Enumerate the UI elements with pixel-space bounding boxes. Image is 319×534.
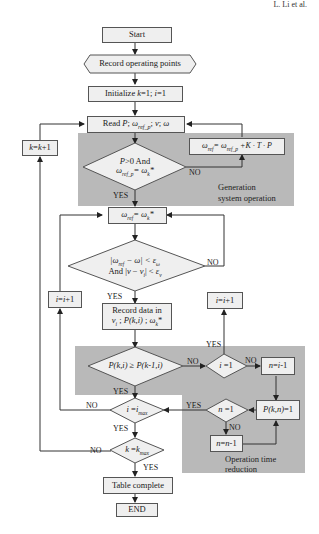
p-set-label: P(k,n)=1	[263, 405, 293, 415]
edge-yes-cond-n1: YES	[186, 401, 201, 410]
k-increment-label: k=k+1	[29, 143, 50, 153]
set-ref-label: ωref= ωk*	[121, 210, 154, 221]
init-node: Initialize k=1; i=1	[88, 86, 183, 102]
init-label: Initialize k=1; i=1	[105, 89, 166, 99]
update-ref-node: ωref= ωref_p +K · T · P	[189, 138, 285, 155]
p-set-node: P(k,n)=1	[256, 400, 300, 420]
cond-n1-label: n =1	[211, 405, 241, 414]
generation-caption-2: system operation	[218, 194, 276, 203]
cond-err-label: |ωref − ω| < εω And |v − vi| < εv	[85, 256, 185, 279]
generation-caption-1: Generation	[218, 183, 256, 192]
reduction-caption-1: Operation time	[225, 455, 276, 464]
i-increment-right-label: i=i+1	[216, 296, 235, 306]
cond-i1-label: i =1	[210, 361, 242, 370]
record-data-label: Record data invi ; P(k,i) ; ωk*	[112, 306, 162, 327]
edge-no-cond-n1: NO	[229, 423, 241, 432]
n-decrement-node: n=n-1	[210, 435, 243, 452]
n-set-label: n=i-1	[269, 361, 288, 371]
edge-no-cond-i1: NO	[245, 356, 257, 365]
edge-yes-cond-err: YES	[107, 292, 122, 301]
n-decrement-label: n=n-1	[216, 439, 236, 449]
edge-yes-cond-imax: YES	[113, 424, 128, 433]
set-ref-node: ωref= ωk*	[108, 207, 167, 224]
table-complete-node: Table complete	[103, 477, 173, 494]
k-increment-node: k=k+1	[22, 140, 58, 156]
start-node: Start	[102, 27, 172, 43]
record-data-node: Record data invi ; P(k,i) ; ωk*	[102, 303, 172, 330]
edge-yes-cond-pk: YES	[113, 387, 128, 396]
record-points-label: Record operating points	[84, 59, 196, 68]
edge-no-cond-err: NO	[207, 258, 219, 267]
i-increment-right-node: i=i+1	[207, 292, 243, 309]
reduction-caption-2: reduction	[225, 465, 257, 474]
read-node: Read P; ωref_p; v; ω	[87, 116, 185, 133]
flowchart-canvas: L. Li et al.	[0, 0, 319, 534]
edge-yes-cond-kmax: YES	[143, 463, 158, 472]
edge-no-cond-p: NO	[189, 168, 201, 177]
update-ref-label: ωref= ωref_p +K · T · P	[202, 141, 272, 152]
i-increment-left-node: i=i+1	[48, 291, 82, 308]
end-node: END	[116, 503, 158, 517]
cond-kmax-label: k =kmax	[115, 445, 159, 456]
edge-no-cond-kmax: NO	[90, 446, 102, 455]
read-label: Read P; ωref_p; v; ω	[103, 119, 170, 131]
edge-yes-cond-i1: YES	[206, 340, 221, 349]
cond-pk-label: P(k,i) ≥ P(k-1,i)	[98, 361, 173, 370]
cond-p-label: P>0 And ωref_p= ωk*	[95, 157, 175, 177]
cond-imax-label: i =imax	[115, 405, 159, 416]
i-increment-left-label: i=i+1	[56, 295, 75, 305]
edge-no-cond-imax: NO	[86, 401, 98, 410]
edge-no-cond-pk: NO	[187, 357, 199, 366]
n-set-node: n=i-1	[261, 357, 295, 375]
edge-yes-cond-p: YES	[113, 191, 128, 200]
